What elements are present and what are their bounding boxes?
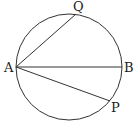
- geometry-diagram: A B Q P: [0, 0, 136, 134]
- label-A: A: [3, 60, 14, 75]
- segment-AP: [16, 67, 110, 101]
- label-P: P: [111, 100, 120, 115]
- segment-AQ: [16, 14, 76, 67]
- label-B: B: [124, 60, 134, 75]
- label-Q: Q: [73, 0, 84, 14]
